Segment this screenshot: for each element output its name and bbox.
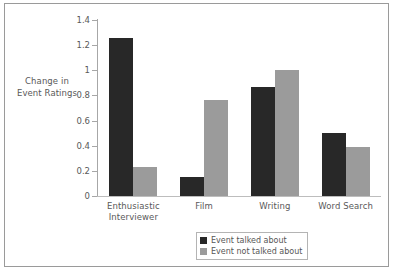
y-axis-ticks: 00.20.40.60.811.21.4	[44, 0, 90, 271]
bar	[251, 87, 275, 196]
legend-label: Event not talked about	[211, 247, 302, 256]
y-tick-label: 1.4	[50, 15, 90, 25]
bar	[133, 167, 157, 196]
bar-group	[322, 20, 370, 196]
y-tick-label: 0.6	[50, 116, 90, 126]
legend-swatch-icon	[200, 237, 207, 244]
x-tick-label-line: Interviewer	[88, 212, 178, 223]
y-tick-mark	[92, 70, 97, 71]
y-tick-mark	[92, 20, 97, 21]
bar	[109, 38, 133, 196]
y-tick-mark	[92, 196, 97, 197]
bar-group	[180, 20, 228, 196]
y-tick-mark	[92, 146, 97, 147]
legend-item: Event not talked about	[200, 246, 302, 256]
bar-group	[251, 20, 299, 196]
x-tick-label-line: Word Search	[301, 201, 391, 212]
y-tick-label: 1.2	[50, 40, 90, 50]
y-tick-mark	[92, 45, 97, 46]
y-tick-mark	[92, 121, 97, 122]
y-tick-label: 0	[50, 191, 90, 201]
y-tick-mark	[92, 171, 97, 172]
plot-area	[98, 20, 381, 196]
bar	[275, 70, 299, 196]
bar	[180, 177, 204, 196]
x-tick-label: Word Search	[301, 201, 391, 212]
y-tick-label: 0.8	[50, 90, 90, 100]
legend-item: Event talked about	[200, 236, 302, 246]
bar	[204, 100, 228, 196]
y-tick-label: 0.2	[50, 166, 90, 176]
y-tick-label: 1	[50, 65, 90, 75]
bar	[346, 147, 370, 196]
bar-group	[109, 20, 157, 196]
chart-legend: Event talked about Event not talked abou…	[196, 232, 308, 260]
chart-figure: Change in Event Ratings 00.20.40.60.811.…	[0, 0, 393, 271]
bar	[322, 133, 346, 196]
y-tick-label: 0.4	[50, 141, 90, 151]
x-axis-line	[92, 196, 381, 197]
y-tick-mark	[92, 95, 97, 96]
legend-swatch-icon	[200, 248, 207, 255]
legend-label: Event talked about	[211, 236, 287, 245]
